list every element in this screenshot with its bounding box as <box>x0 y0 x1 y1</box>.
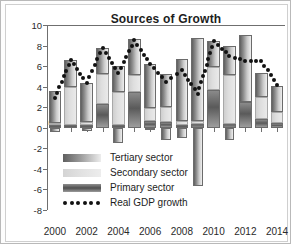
gdp-growth-point <box>127 49 131 53</box>
gdp-growth-point <box>135 43 139 47</box>
bar-segment-negative <box>225 128 235 140</box>
bar-segment-secondary <box>191 121 204 124</box>
gdp-growth-point <box>186 78 190 82</box>
y-tick-mark <box>43 66 47 67</box>
y-tick-mark <box>43 169 47 170</box>
gdp-growth-point <box>67 63 71 67</box>
bar-segment-secondary <box>207 67 220 90</box>
bar-segment-tertiary <box>144 64 157 108</box>
y-tick-label: -8 <box>34 205 42 216</box>
bar-column <box>49 25 62 210</box>
gdp-growth-point <box>110 61 114 65</box>
gdp-growth-point <box>193 87 197 91</box>
gdp-growth-point <box>243 59 247 63</box>
bar-segment-primary <box>64 125 77 128</box>
chart-frame: Sources of Growth Percent 1086420-2-4-6-… <box>0 0 291 244</box>
y-tick-mark <box>43 148 47 149</box>
chart-legend: Tertiary sector Secondary sector Primary… <box>63 150 188 210</box>
gdp-growth-point <box>139 48 143 52</box>
bar-segment-primary <box>271 123 284 128</box>
y-tick-mark <box>43 107 47 108</box>
bar-segment-primary <box>128 92 141 128</box>
gdp-growth-point <box>107 56 111 60</box>
legend-item-tertiary: Tertiary sector <box>63 150 188 165</box>
bar-segment-negative <box>113 128 123 143</box>
bar-segment-primary <box>207 90 220 128</box>
bar-segment-primary <box>144 121 157 128</box>
gdp-growth-point <box>119 66 123 70</box>
bar-segment-primary <box>255 119 268 128</box>
gdp-growth-point <box>60 80 64 84</box>
gdp-growth-point <box>254 59 258 63</box>
gdp-growth-point <box>101 46 105 50</box>
bar-column <box>191 25 204 210</box>
gdp-growth-point <box>169 76 173 80</box>
legend-item-gdp-growth: Real GDP growth <box>63 195 188 210</box>
bar-segment-tertiary <box>255 73 268 97</box>
bar-segment-secondary <box>255 97 268 119</box>
gdp-growth-point <box>90 69 94 73</box>
bar-segment-secondary <box>160 107 173 121</box>
gdp-growth-point <box>197 86 201 90</box>
bar-column <box>255 25 268 210</box>
y-tick-mark <box>43 189 47 190</box>
bar-segment-negative <box>161 128 171 140</box>
bar-segment-secondary <box>64 87 77 125</box>
y-tick-mark <box>43 46 47 47</box>
y-tick-mark <box>43 128 47 129</box>
bar-segment-negative <box>82 128 92 131</box>
bar-segment-secondary <box>112 92 125 125</box>
gdp-growth-point <box>205 63 209 67</box>
bar-segment-tertiary <box>271 86 284 113</box>
gdp-growth-point <box>208 51 212 55</box>
gdp-growth-point <box>266 68 270 72</box>
gdp-growth-point <box>64 69 68 73</box>
gdp-growth-point <box>275 83 279 87</box>
legend-item-secondary: Secondary sector <box>63 165 188 180</box>
y-tick-label: 8 <box>37 40 42 51</box>
gdp-growth-point <box>81 76 85 80</box>
bar-segment-secondary <box>144 108 157 120</box>
gdp-growth-point <box>55 91 59 95</box>
gdp-growth-point <box>152 66 156 70</box>
gdp-growth-point <box>124 55 128 59</box>
gdp-growth-point <box>259 59 263 63</box>
gdp-growth-point <box>72 62 76 66</box>
x-tick-label: 2012 <box>234 226 256 237</box>
x-tick-label: 2000 <box>44 226 66 237</box>
gdp-growth-point <box>132 38 136 42</box>
legend-swatch-gdp-growth <box>63 199 101 207</box>
gdp-growth-point <box>130 44 134 48</box>
legend-label-tertiary: Tertiary sector <box>110 152 173 163</box>
gdp-growth-point <box>95 57 99 61</box>
x-tick-label: 2006 <box>139 226 161 237</box>
legend-swatch-tertiary <box>63 154 101 162</box>
bar-segment-primary <box>239 102 252 128</box>
y-tick-mark <box>43 210 47 211</box>
y-tick-label: 4 <box>37 81 42 92</box>
y-tick-label: 2 <box>37 102 42 113</box>
gdp-growth-point <box>238 57 242 61</box>
legend-label-gdp-growth: Real GDP growth <box>110 197 188 208</box>
bar-segment-secondary <box>80 122 93 125</box>
legend-item-primary: Primary sector <box>63 180 188 195</box>
legend-swatch-secondary <box>63 169 101 177</box>
bar-column <box>271 25 284 210</box>
gdp-growth-point <box>227 54 231 58</box>
gdp-growth-point <box>156 71 160 75</box>
gdp-growth-point <box>57 85 61 89</box>
bar-segment-secondary <box>271 112 284 122</box>
legend-label-primary: Primary sector <box>110 182 174 193</box>
y-tick-mark <box>43 87 47 88</box>
gdp-growth-point <box>164 80 168 84</box>
gdp-growth-point <box>69 58 73 62</box>
gdp-growth-point <box>148 62 152 66</box>
gdp-growth-point <box>189 82 193 86</box>
gdp-growth-point <box>78 72 82 76</box>
gdp-growth-point <box>85 81 89 85</box>
bar-segment-primary <box>96 104 109 128</box>
bar-segment-negative <box>50 128 60 132</box>
gdp-growth-point <box>116 71 120 75</box>
chart-title: Sources of Growth <box>66 12 266 26</box>
gdp-growth-point <box>175 72 179 76</box>
